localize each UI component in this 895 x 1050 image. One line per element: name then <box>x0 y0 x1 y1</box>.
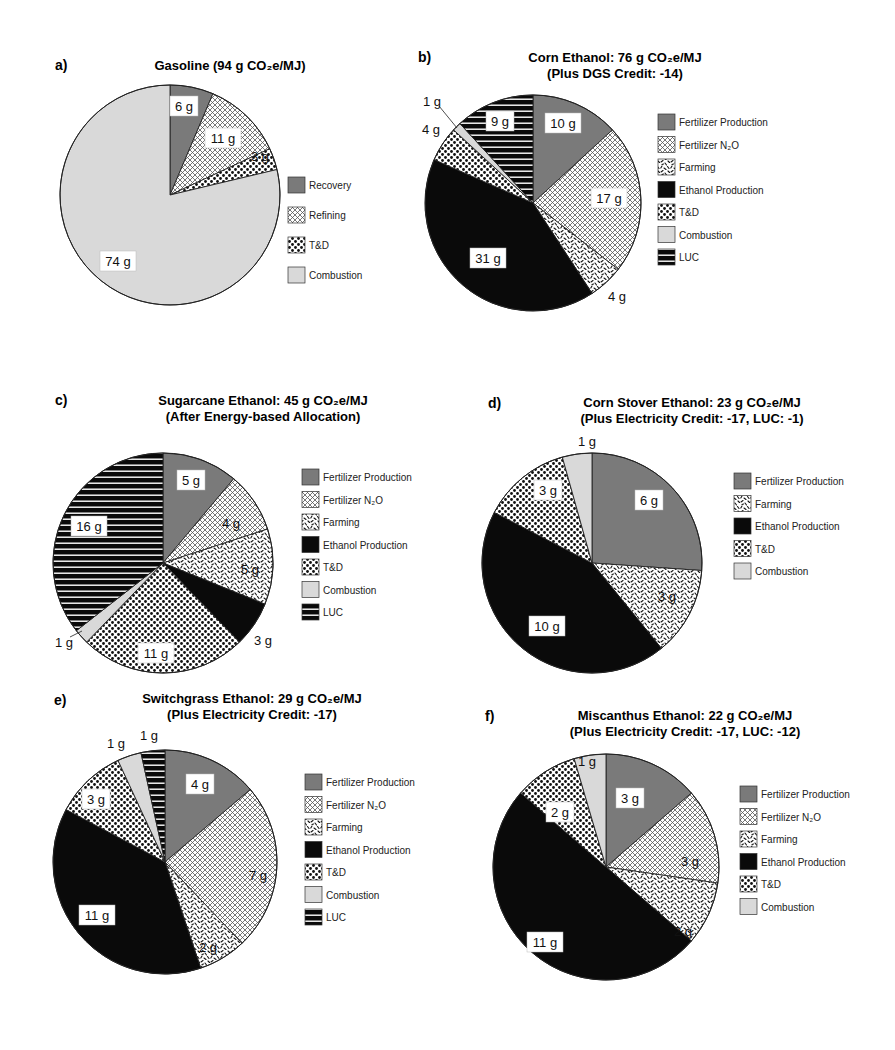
svg-text:11 g: 11 g <box>144 646 168 661</box>
svg-text:7 g: 7 g <box>249 868 267 883</box>
legend-label: Fertilizer Production <box>761 789 850 800</box>
figure-canvas: a)Gasoline (94 g CO₂e/MJ)6 g11 g3 g74 gR… <box>0 0 895 1050</box>
legend-label: Fertilizer N₂O <box>326 800 386 811</box>
slice-value-label: 11 g <box>205 128 241 148</box>
slice-value-label: 10 g <box>529 616 565 636</box>
legend-item-fertilizer-production: Fertilizer Production <box>740 786 850 802</box>
legend-swatch <box>288 237 305 253</box>
chart-subtitle: (After Energy-based Allocation) <box>166 409 361 424</box>
svg-text:2 g: 2 g <box>674 924 692 939</box>
legend-swatch <box>288 207 305 223</box>
panel-letter: d) <box>488 395 501 411</box>
slice-value-label: 6 g <box>635 490 663 510</box>
legend-item-fertilizer-production: Fertilizer Production <box>305 774 415 790</box>
slice-value-label: 10 g <box>545 113 581 133</box>
legend-swatch <box>305 774 322 790</box>
legend-swatch <box>658 204 675 220</box>
legend-item-farming: Farming <box>740 831 798 847</box>
legend-item-t-d: T&D <box>288 237 329 253</box>
svg-text:2 g: 2 g <box>551 805 569 820</box>
slice-value-label: 5 g <box>241 562 259 577</box>
svg-text:5 g: 5 g <box>241 562 259 577</box>
legend-swatch <box>288 177 305 193</box>
svg-text:11 g: 11 g <box>85 908 109 923</box>
svg-text:1 g: 1 g <box>107 736 125 751</box>
slice-value-label: 17 g <box>591 188 627 208</box>
legend-swatch <box>305 842 322 858</box>
svg-text:3 g: 3 g <box>681 854 699 869</box>
legend-swatch <box>734 541 751 557</box>
panel-letter: c) <box>55 392 67 408</box>
svg-text:3 g: 3 g <box>539 483 557 498</box>
slice-value-label: 31 g <box>470 248 506 268</box>
svg-text:16 g: 16 g <box>76 519 101 534</box>
legend-item-luc: LUC <box>658 249 699 265</box>
pie-slices <box>53 750 277 974</box>
svg-text:74 g: 74 g <box>105 254 130 269</box>
svg-text:10 g: 10 g <box>550 116 575 131</box>
legend-label: Combustion <box>326 890 379 901</box>
legend-item-fertilizer-production: Fertilizer Production <box>658 114 768 130</box>
slice-value-label: 16 g <box>71 516 107 536</box>
legend-swatch <box>288 267 305 283</box>
pie-panel-d: d)Corn Stover Ethanol: 23 g CO₂e/MJ(Plus… <box>482 395 844 673</box>
panel-letter: e) <box>54 692 66 708</box>
legend-swatch <box>734 473 751 489</box>
leader-line <box>439 106 457 128</box>
slice-value-label: 6 g <box>170 96 198 116</box>
legend-label: Ethanol Production <box>323 540 408 551</box>
legend-label: Refining <box>309 210 346 221</box>
slice-value-label: 3 g <box>251 149 269 164</box>
legend-swatch <box>740 831 757 847</box>
legend-item-ethanol-production: Ethanol Production <box>302 537 408 553</box>
legend-swatch <box>658 159 675 175</box>
legend-swatch <box>305 864 322 880</box>
slice-value-label: 11 g <box>138 643 174 663</box>
legend-item-ethanol-production: Ethanol Production <box>734 518 840 534</box>
chart-title: Sugarcane Ethanol: 45 g CO₂e/MJ <box>158 393 368 408</box>
legend: Fertilizer ProductionFertilizer N₂OFarmi… <box>305 774 415 925</box>
legend-label: T&D <box>309 240 329 251</box>
legend-label: Fertilizer Production <box>326 777 415 788</box>
legend-label: Ethanol Production <box>679 185 764 196</box>
legend-swatch <box>658 249 675 265</box>
legend-swatch <box>734 518 751 534</box>
legend: Fertilizer ProductionFertilizer N₂OFarmi… <box>302 469 412 620</box>
legend-item-t-d: T&D <box>734 541 775 557</box>
legend-label: Farming <box>323 517 360 528</box>
slice-value-label: 2 g <box>674 924 692 939</box>
legend-label: Farming <box>755 499 792 510</box>
legend-swatch <box>658 137 675 153</box>
legend-swatch <box>302 537 319 553</box>
legend-item-fertilizer-production: Fertilizer Production <box>302 469 412 485</box>
legend-label: Combustion <box>761 902 814 913</box>
svg-text:3 g: 3 g <box>87 792 105 807</box>
legend-swatch <box>305 909 322 925</box>
slice-value-label: 3 g <box>658 589 676 604</box>
legend-item-farming: Farming <box>305 819 363 835</box>
legend-label: LUC <box>679 252 699 263</box>
legend-swatch <box>305 819 322 835</box>
legend-swatch <box>734 496 751 512</box>
legend-item-fertilizer-n2o: Fertilizer N₂O <box>740 809 821 825</box>
svg-text:3 g: 3 g <box>658 589 676 604</box>
slice-value-label: 4 g <box>186 774 214 794</box>
pie-slices <box>60 85 280 305</box>
legend-swatch <box>658 182 675 198</box>
legend-swatch <box>305 797 322 813</box>
svg-text:9 g: 9 g <box>491 114 509 129</box>
legend: RecoveryRefiningT&DCombustion <box>288 177 362 283</box>
slice-value-label: 2 g <box>199 940 217 955</box>
chart-subtitle: (Plus DGS Credit: -14) <box>547 66 683 81</box>
svg-text:6 g: 6 g <box>175 99 193 114</box>
legend-item-fertilizer-production: Fertilizer Production <box>734 473 844 489</box>
slice-value-label: 3 g <box>254 633 272 648</box>
slice-value-label: 1 g <box>107 736 125 751</box>
legend-item-combustion: Combustion <box>734 563 808 579</box>
svg-text:4 g: 4 g <box>222 516 240 531</box>
svg-text:1 g: 1 g <box>578 754 596 769</box>
legend-label: Fertilizer N₂O <box>323 495 383 506</box>
legend-label: Ethanol Production <box>755 521 840 532</box>
legend-swatch <box>740 786 757 802</box>
legend-label: T&D <box>761 879 781 890</box>
